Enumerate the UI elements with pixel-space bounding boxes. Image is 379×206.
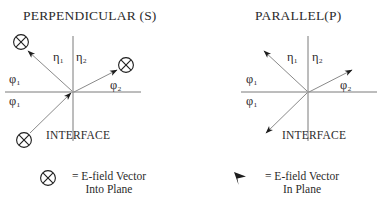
- panel-title-parallel: PARALLEL(P): [255, 8, 341, 24]
- legend-symbol-circled-x: [41, 171, 56, 186]
- angle-label-phi2-transmitted-s: φ₂: [110, 78, 122, 93]
- legend-symbol-arrowhead: [234, 172, 246, 185]
- incident-ray-p: [264, 51, 307, 91]
- panel-title-perpendicular: PERPENDICULAR (S): [23, 8, 157, 24]
- legend-in-plane-line2: In Plane: [265, 183, 339, 196]
- angle-label-phi1-incident-s: φ₁: [9, 72, 21, 87]
- angle-label-phi1-reflected-s: φ₁: [9, 94, 21, 109]
- legend-in-plane-line1: = E-field Vector: [265, 170, 339, 182]
- angle-label-phi2-transmitted-p: φ₂: [340, 78, 352, 93]
- legend-into-plane-text: = E-field Vector Into Plane: [72, 170, 146, 196]
- interface-label-s: INTERFACE: [46, 129, 110, 141]
- medium-label-eta1-p: η₁: [287, 50, 298, 65]
- polarization-figure: PERPENDICULAR (S) η₁ η₂ φ₁ φ₁ φ₂ INTERFA…: [0, 0, 379, 206]
- efield-into-plane-icon-incident-s: [14, 35, 29, 50]
- reflected-ray-s: [30, 93, 71, 133]
- interface-label-p: INTERFACE: [282, 129, 346, 141]
- incident-ray-s: [28, 51, 72, 91]
- angle-label-phi1-incident-p: φ₁: [246, 72, 258, 87]
- legend-into-plane-line2: Into Plane: [72, 183, 146, 196]
- medium-label-eta1-s: η₁: [53, 50, 64, 65]
- panel-parallel: [241, 36, 377, 141]
- reflected-ray-p: [266, 93, 307, 133]
- medium-label-eta2-s: η₂: [76, 50, 87, 65]
- angle-label-phi1-reflected-p: φ₁: [246, 94, 258, 109]
- efield-into-plane-icon-transmitted-s: [119, 58, 134, 73]
- legend-in-plane-text: = E-field Vector In Plane: [265, 170, 339, 196]
- legend-into-plane-line1: = E-field Vector: [72, 170, 146, 182]
- efield-into-plane-icon-reflected-s: [17, 133, 32, 148]
- medium-label-eta2-p: η₂: [312, 50, 323, 65]
